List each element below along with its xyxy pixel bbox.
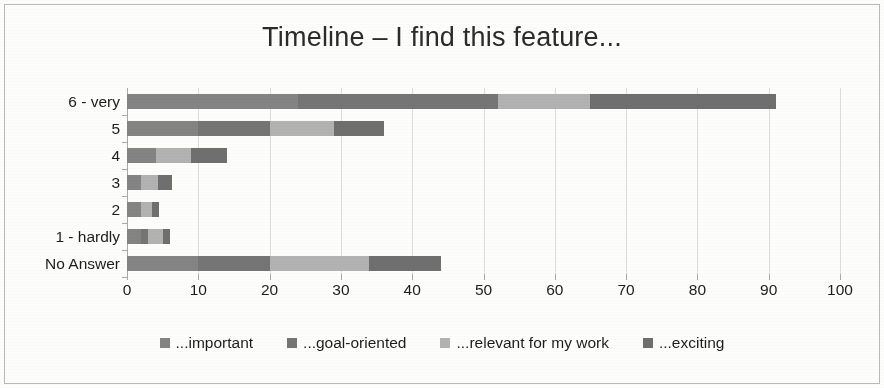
x-axis-tick [484,274,485,280]
bar-segment[interactable] [127,121,198,136]
chart-card: Timeline – I find this feature... 6 - ve… [0,0,884,388]
bar-row[interactable] [127,169,840,196]
x-axis-tick [198,274,199,280]
x-axis-label: 70 [617,281,634,299]
bar-segment[interactable] [334,121,384,136]
y-axis-label: No Answer [0,250,120,277]
x-axis: 0102030405060708090100 [127,281,840,305]
bar-segment[interactable] [163,229,170,244]
bar-segment[interactable] [590,94,775,109]
x-axis-tick [270,274,271,280]
x-axis-label: 0 [123,281,132,299]
bar-segment[interactable] [198,256,269,271]
bar-stack [127,256,441,271]
x-axis-tick [697,274,698,280]
bar-row[interactable] [127,250,840,277]
y-axis-label: 3 [0,169,120,196]
bar-segment[interactable] [141,229,148,244]
bar-segment[interactable] [152,202,159,217]
bar-segment[interactable] [127,175,141,190]
bar-segment[interactable] [270,256,370,271]
x-axis-tick [127,274,128,280]
chart-title: Timeline – I find this feature... [0,22,884,53]
y-axis-label: 2 [0,196,120,223]
legend-item[interactable]: ...important [160,334,254,352]
bar-segment[interactable] [127,229,141,244]
y-axis: 6 - very54321 - hardlyNo Answer [0,88,120,277]
x-axis-label: 40 [404,281,421,299]
bar-segment[interactable] [127,256,198,271]
bar-segment[interactable] [158,175,172,190]
bar-segment[interactable] [298,94,498,109]
bar-row[interactable] [127,196,840,223]
chart-legend: ...important...goal-oriented...relevant … [0,334,884,352]
bar-stack [127,175,172,190]
x-axis-label: 100 [827,281,853,299]
bar-stack [127,94,776,109]
x-axis-label: 50 [475,281,492,299]
legend-item[interactable]: ...exciting [643,334,724,352]
legend-swatch-icon [440,338,450,348]
legend-label: ...important [176,334,254,352]
x-axis-label: 80 [689,281,706,299]
legend-label: ...exciting [659,334,724,352]
x-axis-tick [626,274,627,280]
y-axis-label: 6 - very [0,88,120,115]
y-axis-label: 1 - hardly [0,223,120,250]
bar-stack [127,229,170,244]
bar-row[interactable] [127,88,840,115]
x-axis-tick [412,274,413,280]
bar-segment[interactable] [156,148,192,163]
bar-stack [127,148,227,163]
legend-item[interactable]: ...relevant for my work [440,334,608,352]
bars-group [127,88,840,277]
x-axis-label: 10 [190,281,207,299]
y-axis-label: 5 [0,115,120,142]
y-axis-label: 4 [0,142,120,169]
legend-swatch-icon [287,338,297,348]
x-axis-label: 20 [261,281,278,299]
bar-segment[interactable] [498,94,591,109]
bar-segment[interactable] [198,121,269,136]
x-axis-label: 30 [332,281,349,299]
bar-stack [127,202,159,217]
bar-segment[interactable] [127,94,298,109]
bar-segment[interactable] [141,202,152,217]
bar-segment[interactable] [191,148,227,163]
legend-swatch-icon [160,338,170,348]
gridline-100 [840,88,841,277]
bar-segment[interactable] [270,121,334,136]
x-axis-label: 60 [546,281,563,299]
bar-segment[interactable] [127,148,156,163]
x-axis-tick [341,274,342,280]
bar-stack [127,121,384,136]
x-axis-tick [840,274,841,280]
x-axis-tick [769,274,770,280]
bar-segment[interactable] [127,202,141,217]
x-axis-tick [555,274,556,280]
x-axis-label: 90 [760,281,777,299]
plot-area [127,88,840,277]
bar-segment[interactable] [141,175,158,190]
bar-segment[interactable] [148,229,162,244]
bar-row[interactable] [127,142,840,169]
legend-swatch-icon [643,338,653,348]
bar-row[interactable] [127,223,840,250]
legend-item[interactable]: ...goal-oriented [287,334,406,352]
bar-row[interactable] [127,115,840,142]
bar-segment[interactable] [369,256,440,271]
legend-label: ...relevant for my work [456,334,608,352]
legend-label: ...goal-oriented [303,334,406,352]
